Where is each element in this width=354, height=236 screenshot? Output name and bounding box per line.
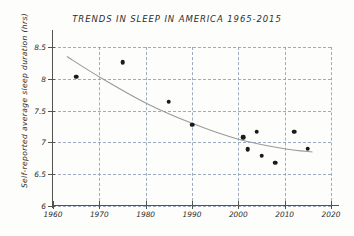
y-axis-tick-mark: [48, 174, 55, 175]
x-axis-tick-label: 2010: [265, 210, 305, 219]
plot-area: [53, 47, 331, 206]
chart-title: TRENDS IN SLEEP IN AMERICA 1965-2015: [0, 14, 354, 24]
x-axis-tick-mark: [238, 201, 239, 209]
data-point: [190, 122, 195, 127]
x-axis-tick-mark: [99, 201, 100, 209]
data-point: [306, 146, 311, 151]
x-axis-tick-label: 1970: [79, 210, 119, 219]
y-axis-tick-label: 6.5: [2, 170, 46, 179]
y-axis-tick-label: 7: [2, 138, 46, 147]
x-gridline: [146, 47, 147, 206]
y-axis-tick-label: 8: [2, 74, 46, 83]
data-point: [74, 75, 79, 80]
x-gridline: [99, 47, 100, 206]
x-axis-tick-mark: [53, 201, 54, 209]
x-axis-tick-mark: [331, 201, 332, 209]
y-axis-tick-mark: [48, 142, 55, 143]
x-axis-tick-label: 1990: [172, 210, 212, 219]
x-axis-tick-label: 1980: [126, 210, 166, 219]
x-gridline: [285, 47, 286, 206]
x-axis-tick-mark: [192, 201, 193, 209]
data-point: [292, 129, 297, 134]
x-axis-tick-mark: [285, 201, 286, 209]
y-axis-tick-label: 7.5: [2, 106, 46, 115]
data-point: [241, 135, 246, 140]
y-axis-tick-mark: [48, 79, 55, 80]
data-point: [245, 147, 250, 152]
x-axis-tick-mark: [146, 201, 147, 209]
data-point: [273, 160, 278, 165]
data-point: [120, 60, 125, 65]
data-point: [255, 129, 260, 134]
data-point: [167, 99, 172, 104]
x-gridline: [331, 47, 332, 206]
chart-figure: TRENDS IN SLEEP IN AMERICA 1965-2015 Sel…: [0, 0, 354, 236]
x-axis-tick-label: 1960: [33, 210, 73, 219]
y-axis-tick-label: 8.5: [2, 43, 46, 52]
x-gridline: [238, 47, 239, 206]
data-point: [259, 153, 264, 158]
y-axis-tick-mark: [48, 111, 55, 112]
x-axis-tick-label: 2020: [311, 210, 351, 219]
x-axis-tick-label: 2000: [218, 210, 258, 219]
y-axis-tick-mark: [48, 47, 55, 48]
